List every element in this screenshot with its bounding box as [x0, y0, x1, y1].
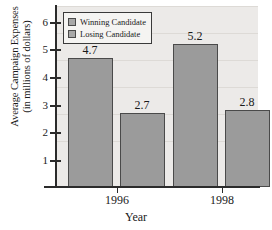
bar-chart-figure: Average Campaign Expenses (in millions o… [0, 0, 272, 230]
y-tick-mark-1 [50, 160, 61, 162]
y-tick-label-4: 4 [34, 72, 48, 83]
y-axis-title-line1: Average Campaign Expenses [9, 0, 21, 157]
y-tick-label-2: 2 [34, 127, 48, 138]
y-tick-mark-3 [50, 105, 61, 107]
bar-value-1998-losing: 2.8 [227, 96, 267, 108]
y-axis-title: Average Campaign Expenses (in millions o… [9, 0, 32, 157]
legend: Winning Candidate Losing Candidate [63, 12, 152, 44]
legend-swatch-icon-losing [68, 30, 76, 38]
bar-1996-losing [120, 113, 165, 187]
y-axis-title-line2: (in millions of dollars) [20, 0, 32, 157]
bar-1998-winning [173, 44, 218, 187]
y-tick-label-3: 3 [34, 100, 48, 111]
y-tick-mark-6 [50, 22, 61, 24]
y-tick-label-6: 6 [34, 17, 48, 28]
bar-value-1996-losing: 2.7 [122, 99, 162, 111]
x-axis-title: Year [0, 211, 272, 224]
x-axis-line [44, 186, 260, 188]
y-tick-label-1: 1 [34, 155, 48, 166]
bar-1996-winning [68, 58, 113, 187]
x-tick-label-1998: 1998 [192, 194, 252, 207]
bar-value-1996-winning: 4.7 [70, 44, 110, 56]
y-tick-mark-5 [50, 49, 61, 51]
gridline-6 [56, 6, 258, 7]
y-tick-label-5: 5 [34, 44, 48, 55]
legend-item-winning-candidate: Winning Candidate [68, 16, 146, 28]
bar-value-1998-winning: 5.2 [175, 30, 215, 42]
legend-item-losing-candidate: Losing Candidate [68, 28, 146, 40]
y-tick-mark-4 [50, 77, 61, 79]
legend-label-winning: Winning Candidate [80, 18, 146, 27]
legend-swatch-icon-winning [68, 18, 76, 26]
bar-1998-losing [225, 110, 270, 187]
y-tick-mark-2 [50, 132, 61, 134]
x-tick-label-1996: 1996 [87, 194, 147, 207]
legend-label-losing: Losing Candidate [80, 30, 140, 39]
